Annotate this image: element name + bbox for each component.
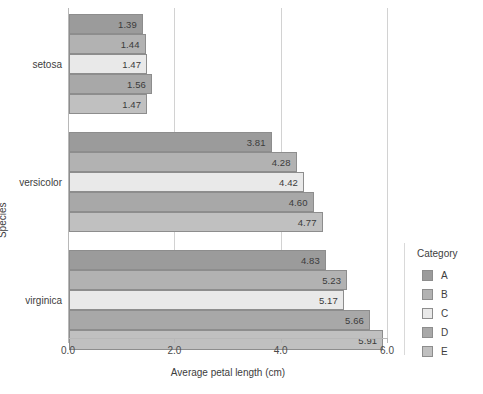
legend-swatch-icon: [422, 289, 433, 300]
x-axis-tick-label: 2.0: [167, 345, 181, 356]
bar: 1.39: [69, 14, 143, 34]
bar-value-label: 5.66: [345, 315, 369, 326]
x-axis-tick-mark: [68, 338, 69, 343]
y-axis-tick-label: virginica: [25, 295, 62, 306]
bar-value-label: 1.56: [127, 79, 151, 90]
bar-value-label: 4.28: [272, 157, 296, 168]
x-axis-title: Average petal length (cm): [68, 367, 388, 378]
legend-title: Category: [417, 248, 483, 259]
bar: 1.56: [69, 74, 152, 94]
plot-area: 1.391.441.471.561.473.814.284.424.604.77…: [68, 8, 387, 338]
x-axis-tick-mark: [281, 338, 282, 343]
bar-value-label: 4.60: [289, 197, 313, 208]
bar-value-label: 1.44: [121, 39, 145, 50]
legend-item-label: E: [441, 346, 448, 357]
bar: 4.42: [69, 172, 304, 192]
y-axis-tick-labels: setosaversicolorvirginica: [0, 0, 62, 394]
legend-item-label: D: [441, 327, 448, 338]
legend-item[interactable]: D: [422, 323, 483, 342]
bar-value-label: 3.81: [247, 137, 271, 148]
legend-items: ABCDE: [410, 266, 483, 361]
legend-item[interactable]: A: [422, 266, 483, 285]
y-axis-tick-label: setosa: [33, 59, 62, 70]
bar: 1.44: [69, 34, 146, 54]
x-axis-tick-mark: [387, 338, 388, 343]
bar: 4.28: [69, 152, 297, 172]
legend-swatch-icon: [422, 346, 433, 357]
bar: 4.83: [69, 250, 326, 270]
x-axis-tick-label: 0.0: [61, 345, 75, 356]
x-axis-tick-mark: [174, 338, 175, 343]
bar-value-label: 4.42: [279, 177, 303, 188]
bar-value-label: 4.77: [298, 217, 322, 228]
legend-item[interactable]: E: [422, 342, 483, 361]
bar-value-label: 1.47: [122, 99, 146, 110]
gridline: [387, 8, 388, 338]
legend-swatch-icon: [422, 327, 433, 338]
bar: 4.60: [69, 192, 314, 212]
bar: 1.47: [69, 94, 147, 114]
legend: Category ABCDE: [410, 248, 483, 361]
legend-swatch-icon: [422, 270, 433, 281]
legend-divider: [404, 243, 405, 355]
legend-item[interactable]: B: [422, 285, 483, 304]
bar-value-label: 5.91: [358, 335, 382, 346]
bar-value-label: 5.23: [322, 275, 346, 286]
x-axis-tick-label: 6.0: [380, 345, 394, 356]
bar-value-label: 1.47: [122, 59, 146, 70]
y-axis-tick-label: versicolor: [19, 177, 62, 188]
bar: 5.17: [69, 290, 344, 310]
bar: 5.66: [69, 310, 370, 330]
legend-swatch-icon: [422, 308, 433, 319]
legend-item-label: B: [441, 289, 448, 300]
bar-value-label: 1.39: [118, 19, 142, 30]
legend-item-label: A: [441, 270, 448, 281]
bar-value-label: 5.17: [319, 295, 343, 306]
legend-item-label: C: [441, 308, 448, 319]
bar: 5.23: [69, 270, 347, 290]
bar-value-label: 4.83: [301, 255, 325, 266]
bar: 3.81: [69, 132, 272, 152]
bar: 4.77: [69, 212, 323, 232]
x-axis-line: [68, 338, 388, 339]
bar-chart: Species setosaversicolorvirginica 1.391.…: [0, 0, 483, 394]
x-axis-tick-label: 4.0: [274, 345, 288, 356]
legend-item[interactable]: C: [422, 304, 483, 323]
bar: 5.91: [69, 330, 383, 350]
bar: 1.47: [69, 54, 147, 74]
